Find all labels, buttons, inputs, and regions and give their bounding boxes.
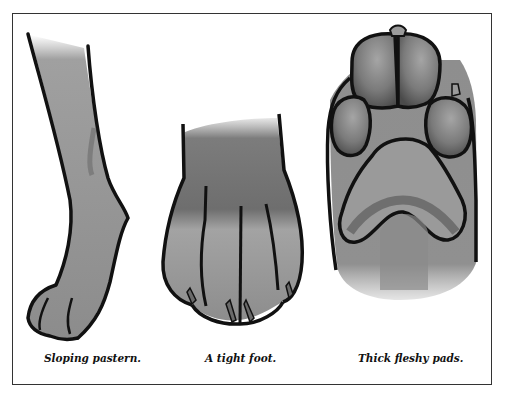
tight-foot-illustration [163, 114, 302, 324]
caption-sloping-pastern: Sloping pastern. [44, 352, 141, 364]
pads-illustration [327, 26, 477, 301]
caption-tight-foot: A tight foot. [205, 352, 276, 364]
figure-illustrations [0, 0, 506, 398]
pastern-illustration [28, 34, 128, 339]
caption-thick-fleshy-pads: Thick fleshy pads. [358, 352, 463, 364]
